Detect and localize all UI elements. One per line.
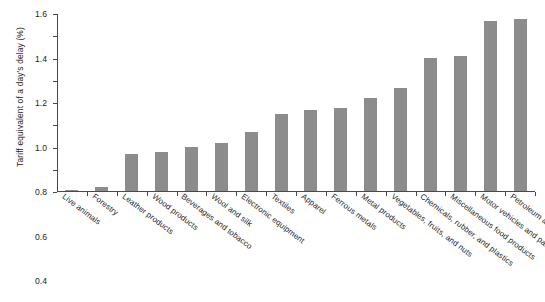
- bar: [125, 154, 138, 191]
- y-axis-line: [57, 14, 58, 192]
- y-tick-label: 1.4: [35, 54, 47, 64]
- bar: [304, 110, 317, 191]
- y-tick-mark: 0.4: [53, 148, 57, 149]
- y-tick-mark: 0.8: [53, 103, 57, 104]
- x-category-label: Apparel: [300, 192, 328, 216]
- bar: [215, 143, 228, 191]
- x-category-label: Textiles: [270, 192, 297, 216]
- y-tick-label: 1.6: [35, 9, 47, 19]
- y-tick-label: 0.4: [35, 276, 47, 286]
- y-axis-title: Tariff equivalent of a day's delay (%): [15, 5, 25, 190]
- bar: [394, 88, 407, 191]
- x-tick-mark: [535, 192, 536, 196]
- y-tick-label: 0.8: [35, 187, 47, 197]
- y-tick-mark: 1.6: [53, 14, 57, 15]
- bar: [514, 19, 527, 191]
- x-category-label: Leather products: [120, 192, 175, 236]
- y-tick-mark: 1.2: [53, 59, 57, 60]
- bar: [185, 147, 198, 192]
- bar: [364, 98, 377, 191]
- y-tick-label: 1.2: [35, 98, 47, 108]
- plot-area: 00.20.40.60.81.01.21.41.6: [57, 14, 535, 192]
- y-tick-mark: 1.0: [53, 81, 57, 82]
- y-tick-mark: 0.2: [53, 170, 57, 171]
- bar: [65, 190, 78, 191]
- y-tick-label: 0.6: [35, 232, 47, 242]
- bar: [334, 108, 347, 191]
- bar: [454, 56, 467, 191]
- bar: [484, 21, 497, 191]
- bar: [275, 114, 288, 191]
- bar-chart: Tariff equivalent of a day's delay (%) 0…: [0, 0, 545, 302]
- y-tick-mark: 1.4: [53, 36, 57, 37]
- bar: [424, 58, 437, 192]
- bar: [245, 132, 258, 191]
- y-tick-mark: 0.6: [53, 125, 57, 126]
- y-tick-label: 1.0: [35, 143, 47, 153]
- bar: [155, 152, 168, 191]
- x-axis-category-labels: Live animalsForestryLeather productsWood…: [57, 192, 535, 302]
- bar: [95, 187, 108, 191]
